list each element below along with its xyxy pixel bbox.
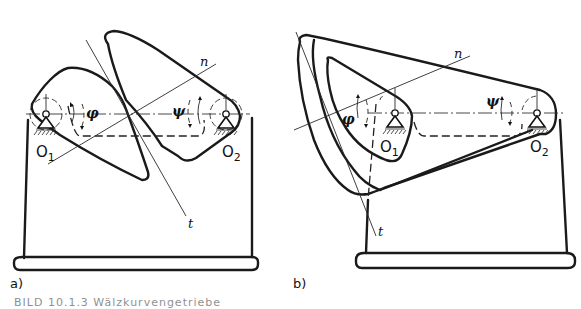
panel-label-b: b)	[293, 276, 306, 291]
panel-a: φ ψ n t O1 O2 a)	[10, 31, 258, 291]
angle-label-phi-b: φ	[342, 111, 355, 127]
rotation-arrows-psi-a	[188, 96, 202, 128]
base-plate-b	[356, 253, 575, 268]
coupler-dashed-b	[414, 122, 522, 136]
rotation-arrows-phi-a	[70, 102, 84, 130]
angle-label-psi-b: ψ	[486, 93, 500, 109]
normal-label-b: n	[454, 46, 462, 61]
cam-right-a	[105, 31, 240, 161]
normal-label-a: n	[200, 54, 208, 69]
tangent-label-a: t	[188, 216, 194, 231]
link-to-o2-b	[380, 130, 532, 190]
pivot-label-o2-b: O2	[530, 138, 549, 159]
pivot-label-o1-a: O1	[36, 143, 55, 164]
pivot-label-o1-b: O1	[380, 138, 399, 159]
panel-b: φ ψ n t O1 O2 b)	[293, 32, 575, 291]
pivot-label-o2-a: O2	[222, 143, 241, 164]
angle-label-psi-a: ψ	[172, 103, 186, 119]
figure-caption: BILD 10.1.3 Wälzkurvengetriebe	[14, 296, 221, 309]
pivot-o2-a	[210, 94, 242, 135]
cam-inner-b	[327, 57, 412, 161]
panel-label-a: a)	[10, 276, 23, 291]
tangent-label-b: t	[378, 224, 384, 239]
base-plate-a	[14, 257, 258, 270]
rotation-arrows-psi-b	[500, 96, 512, 126]
angle-label-phi-a: φ	[86, 105, 99, 121]
rotation-arrows-phi-b	[356, 94, 368, 128]
tangent-line-a	[86, 40, 186, 216]
pivot-o2-b	[522, 90, 548, 134]
tangent-line-b	[296, 32, 376, 236]
